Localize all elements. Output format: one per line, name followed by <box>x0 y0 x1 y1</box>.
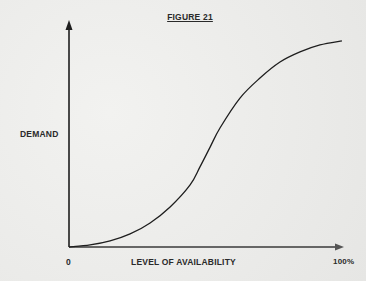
figure-title: FIGURE 21 <box>167 12 213 22</box>
y-axis-label: DEMAND <box>20 129 59 139</box>
x-tick-label-start: 0 <box>66 257 71 267</box>
chart-canvas <box>0 0 366 281</box>
x-axis-label: LEVEL OF AVAILABILITY <box>131 257 236 267</box>
demand-curve <box>69 41 342 247</box>
x-tick-label-end: 100% <box>333 257 354 266</box>
x-axis-arrow-icon <box>335 244 344 251</box>
y-axis-arrow-icon <box>66 20 73 30</box>
